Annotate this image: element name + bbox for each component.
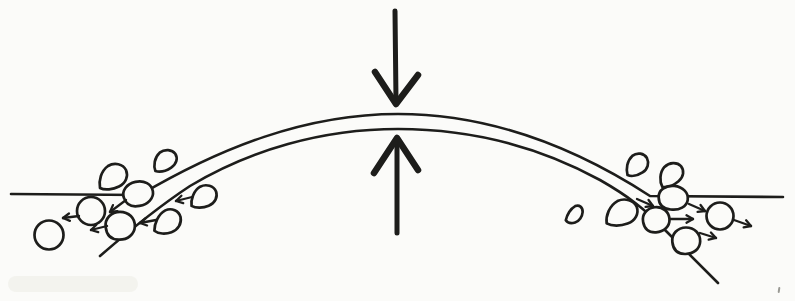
compression-arrow-shaft (395, 11, 396, 101)
vesicle-circle-right-outer (707, 203, 734, 230)
scan-smudge (8, 276, 138, 292)
membrane-compression-diagram (0, 0, 795, 301)
vesicle-blob-right-lower (672, 228, 700, 255)
flow-arrowhead-lower-barb (110, 211, 117, 212)
vesicle-blob-left-lower (106, 212, 135, 240)
vesicle-circle-left-inner (77, 197, 105, 225)
scanned-figure-page (0, 0, 795, 301)
vesicle-blob-right-mid (642, 206, 671, 233)
vesicle-circle-left-outer (35, 221, 64, 250)
